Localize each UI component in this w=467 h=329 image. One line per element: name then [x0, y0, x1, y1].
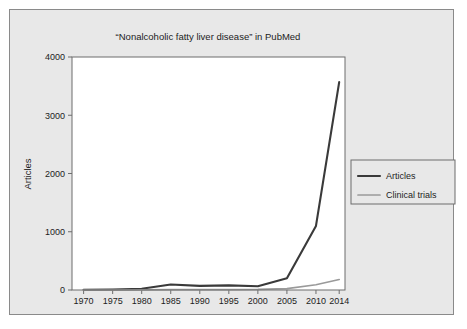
x-tick-label: 1990	[190, 296, 210, 306]
x-tick-label: 2000	[248, 296, 268, 306]
plot-area-background	[72, 57, 345, 290]
y-axis-title: Articles	[22, 158, 33, 189]
x-tick-label: 1985	[161, 296, 181, 306]
y-tick-label: 3000	[45, 111, 65, 121]
x-tick-label: 1970	[74, 296, 94, 306]
chart-title: “Nonalcoholic fatty liver disease” in Pu…	[116, 31, 301, 42]
legend-label-clinical-trials: Clinical trials	[386, 190, 437, 200]
y-axis: 01000200030004000	[45, 52, 72, 295]
x-axis: 1970197519801985199019952000200520102014	[74, 290, 350, 306]
legend: ArticlesClinical trials	[351, 160, 455, 204]
x-tick-label: 1975	[103, 296, 123, 306]
y-tick-label: 4000	[45, 52, 65, 62]
pubmed-nafld-line-chart: 01000200030004000 1970197519801985199019…	[0, 0, 467, 329]
x-tick-label: 1980	[132, 296, 152, 306]
y-tick-label: 1000	[45, 227, 65, 237]
x-tick-label: 1995	[219, 296, 239, 306]
figure-root: 01000200030004000 1970197519801985199019…	[0, 0, 467, 329]
x-tick-label: 2005	[277, 296, 297, 306]
y-tick-label: 2000	[45, 169, 65, 179]
legend-label-articles: Articles	[386, 171, 416, 181]
y-tick-label: 0	[60, 285, 65, 295]
x-tick-label: 2010	[306, 296, 326, 306]
x-tick-label: 2014	[329, 296, 349, 306]
